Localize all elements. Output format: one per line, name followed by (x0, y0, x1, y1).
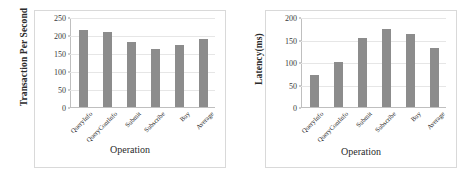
y-tick-label: 50 (289, 81, 297, 90)
bar[interactable] (79, 30, 88, 107)
y-tick-mark (68, 54, 70, 55)
bar-slot (191, 18, 215, 107)
bar[interactable] (103, 32, 112, 107)
y-tick-label: 100 (285, 59, 297, 68)
y-tick-mark (68, 108, 70, 109)
bar-slot (302, 18, 326, 107)
y-tick-label: 50 (58, 86, 66, 95)
bar-slot (374, 18, 398, 107)
y-tick-label: 100 (54, 68, 66, 77)
bar-group (71, 18, 215, 107)
x-tick-label: Submit (124, 110, 142, 128)
bar-slot (422, 18, 446, 107)
y-axis-title-latency: Latency(ms) (254, 14, 264, 104)
y-tick-label: 200 (285, 14, 297, 23)
x-tick-label: Average (425, 110, 445, 130)
y-tick-mark (299, 85, 301, 86)
y-tick-label: 0 (62, 104, 66, 113)
bar[interactable] (151, 49, 160, 107)
plot-area-throughput: 050100150200250 (70, 18, 215, 108)
y-tick-mark (68, 18, 70, 19)
y-tick-mark (299, 63, 301, 64)
x-tick-label: QueryInfo (300, 110, 324, 134)
bar[interactable] (310, 75, 319, 107)
bar-slot (398, 18, 422, 107)
figure-container: Transaction Per Second 050100150200250 Q… (0, 0, 470, 179)
x-tick-label: Submit (355, 110, 373, 128)
x-tick-label: Average (194, 110, 214, 130)
bar[interactable] (430, 48, 439, 107)
y-tick-mark (68, 72, 70, 73)
throughput-chart-panel: Transaction Per Second 050100150200250 Q… (8, 4, 233, 172)
bar[interactable] (382, 29, 391, 107)
y-tick-label: 150 (285, 36, 297, 45)
y-tick-mark (299, 18, 301, 19)
x-tick-labels-latency: QueryInfoQueryContInfoSubmitSubscribeBuy… (302, 110, 447, 150)
x-tick-label: Buy (409, 110, 422, 123)
x-tick-label: Subscribe (143, 110, 166, 133)
bar-slot (119, 18, 143, 107)
y-tick-label: 0 (293, 104, 297, 113)
x-tick-label: Buy (178, 110, 191, 123)
y-tick-mark (299, 108, 301, 109)
y-tick-mark (68, 90, 70, 91)
y-tick-mark (68, 36, 70, 37)
x-tick-label: QueryInfo (69, 110, 93, 134)
bar[interactable] (334, 62, 343, 107)
y-tick-label: 200 (54, 32, 66, 41)
bar-slot (326, 18, 350, 107)
bar-slot (71, 18, 95, 107)
bar[interactable] (358, 38, 367, 107)
bar-slot (143, 18, 167, 107)
latency-chart-panel: Latency(ms) 050100150200 QueryInfoQueryC… (239, 4, 464, 172)
y-axis-title-throughput: Transaction Per Second (19, 0, 29, 117)
bar-group (302, 18, 446, 107)
bar-slot (167, 18, 191, 107)
bar[interactable] (127, 42, 136, 108)
y-tick-mark (299, 40, 301, 41)
plot-area-latency: 050100150200 (301, 18, 446, 108)
bar[interactable] (175, 45, 184, 107)
bar[interactable] (199, 39, 208, 107)
y-tick-label: 250 (54, 14, 66, 23)
bar[interactable] (406, 34, 415, 107)
x-tick-label: Subscribe (374, 110, 397, 133)
bar-slot (350, 18, 374, 107)
x-axis-line (301, 107, 446, 108)
y-tick-label: 150 (54, 50, 66, 59)
x-axis-line (70, 107, 215, 108)
x-axis-title-throughput: Operation (34, 144, 226, 155)
x-axis-title-latency: Operation (265, 146, 457, 157)
bar-slot (95, 18, 119, 107)
